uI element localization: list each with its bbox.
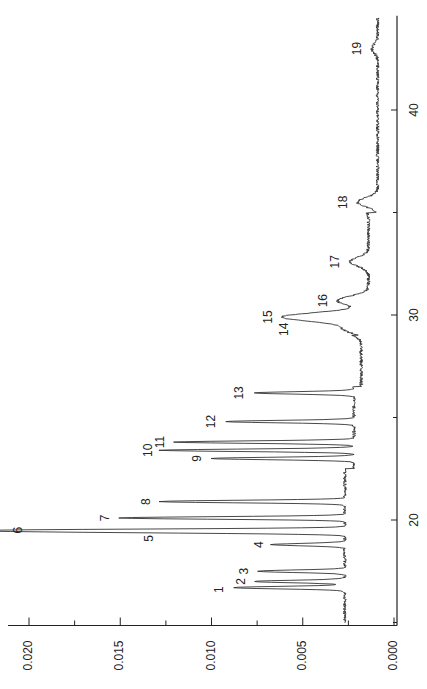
time-tick-label: 20 [407,513,421,527]
time-tick-label: 30 [407,308,421,322]
chromatogram-chart: 2030400.0000.0050.0100.0150.020 12345678… [0,0,427,689]
peak-label: 19 [350,42,364,56]
peak-label: 17 [328,255,342,269]
peak-label: 12 [204,415,218,429]
peak-label: 18 [336,195,350,209]
absorbance-tick-label: 0.010 [204,640,218,670]
axes: 2030400.0000.0050.0100.0150.020 [8,16,421,671]
absorbance-tick-label: 0.015 [112,640,126,670]
peak-label: 8 [139,498,153,505]
peak-label: 11 [153,436,167,449]
absorbance-tick-label: 0.000 [386,640,400,670]
chromatogram-trace [0,18,379,622]
absorbance-tick-label: 0.005 [295,640,309,670]
peak-label: 5 [142,535,156,542]
peak-label: 1 [212,586,226,593]
peak-label: 9 [190,455,204,462]
peak-label: 13 [232,386,246,400]
peak-label: 15 [261,310,275,324]
time-tick-label: 40 [407,103,421,117]
peak-label: 3 [237,568,251,575]
peak-label: 6 [11,527,25,534]
peak-label: 16 [316,294,330,308]
peak-label: 7 [98,514,112,521]
chromatogram-line [0,18,379,622]
peak-label: 2 [234,578,248,585]
peak-label: 4 [252,541,266,548]
peak-labels: 12345678910111213141516171819 [11,42,364,593]
absorbance-tick-label: 0.020 [21,640,35,670]
peak-label: 14 [277,322,291,336]
